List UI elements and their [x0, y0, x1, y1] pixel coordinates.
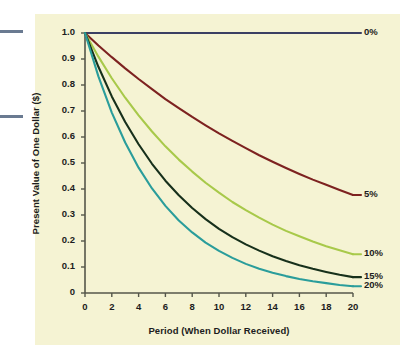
x-tick-label: 12: [234, 301, 258, 312]
x-tick-label: 16: [287, 301, 311, 312]
x-tick-label: 8: [180, 301, 204, 312]
x-tick-label: 20: [341, 301, 365, 312]
x-tick-label: 6: [153, 301, 177, 312]
series-line-5pct: [85, 33, 353, 195]
y-tick-label: 0: [45, 286, 75, 297]
y-axis-title: Present Value of One Dollar ($): [30, 69, 41, 259]
series-label-10pct: 10%: [364, 247, 383, 258]
x-tick-label: 0: [73, 301, 97, 312]
series-line-20pct: [85, 33, 353, 286]
y-tick-label: 0.6: [45, 130, 75, 141]
y-tick-label: 0.9: [45, 52, 75, 63]
y-tick-label: 0.4: [45, 182, 75, 193]
series-label-0pct: 0%: [364, 26, 378, 37]
y-tick-label: 0.2: [45, 234, 75, 245]
x-tick-label: 2: [100, 301, 124, 312]
series-label-20pct: 20%: [364, 279, 383, 290]
y-tick-label: 0.1: [45, 260, 75, 271]
y-tick-label: 0.5: [45, 156, 75, 167]
x-axis-title: Period (When Dollar Received): [85, 325, 353, 336]
y-tick-label: 0.3: [45, 208, 75, 219]
x-tick-label: 18: [314, 301, 338, 312]
y-tick-label: 0.7: [45, 104, 75, 115]
figure-container: Period (When Dollar Received) Present Va…: [0, 0, 418, 358]
x-tick-label: 10: [207, 301, 231, 312]
x-tick-label: 14: [261, 301, 285, 312]
x-tick-label: 4: [127, 301, 151, 312]
y-tick-label: 0.8: [45, 78, 75, 89]
series-label-5pct: 5%: [364, 188, 378, 199]
y-tick-label: 1.0: [45, 26, 75, 37]
